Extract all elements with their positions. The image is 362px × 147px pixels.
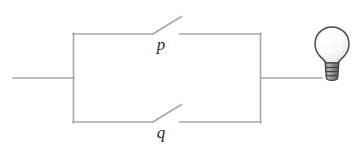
branch-top-switch-p[interactable]	[73, 17, 261, 35]
bulb-glass	[315, 27, 349, 63]
switch-q-label: q	[157, 123, 166, 142]
bulb-highlight	[321, 32, 331, 45]
open-switch-icon-q[interactable]	[152, 105, 182, 123]
circuit-canvas: p q	[0, 0, 362, 147]
circuit-diagram: p q	[0, 0, 362, 147]
branch-bottom-switch-q[interactable]	[73, 105, 261, 123]
open-switch-icon-p[interactable]	[152, 17, 182, 35]
switch-p-label: p	[156, 35, 166, 54]
light-bulb-icon[interactable]	[315, 27, 349, 80]
